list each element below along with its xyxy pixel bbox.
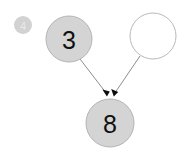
diagram-canvas: 4 3 8: [0, 0, 191, 163]
node-3[interactable]: 3: [46, 16, 92, 62]
node-8[interactable]: 8: [86, 99, 134, 147]
node-empty-circle[interactable]: [130, 13, 176, 59]
graph-svg: 4 3 8: [0, 0, 191, 163]
step-badge: 4: [14, 16, 32, 34]
node-empty[interactable]: [130, 13, 176, 59]
node-3-label: 3: [62, 26, 76, 54]
edge-from-node-empty-to-node-8: [115, 56, 141, 94]
edge-from-node-3-to-node-8: [80, 59, 107, 94]
node-8-label: 8: [103, 110, 117, 138]
step-badge-label: 4: [20, 20, 26, 32]
edge-group: [80, 56, 140, 96]
arrowhead-into-node-8-left: [102, 90, 109, 97]
